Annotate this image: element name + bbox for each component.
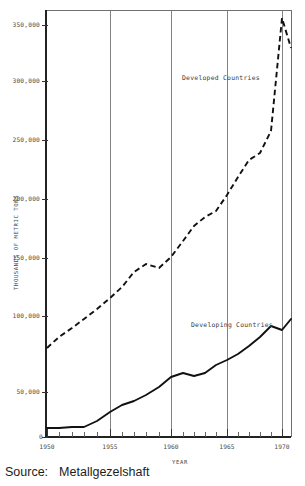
source-caption: Source:Metallgezelshaft xyxy=(5,465,149,479)
ytick-label-50000: 50,000 xyxy=(16,388,40,395)
xtick-label-1965: 1965 xyxy=(219,443,234,450)
series-line-developing xyxy=(47,319,291,428)
xtick-label-1970: 1970 xyxy=(274,443,289,450)
ytick-label-100000: 100,000 xyxy=(13,312,41,319)
x-axis-title: YEAR xyxy=(172,459,188,465)
ytick-label-250000: 250,000 xyxy=(13,136,41,143)
y-axis-title: THOUSANDS OF METRIC TONS xyxy=(13,195,19,290)
x-axis-major-ticks xyxy=(47,429,282,437)
ytick-label-300000: 300,000 xyxy=(13,77,41,84)
xtick-label-1955: 1955 xyxy=(102,443,117,450)
y-axis-ticks xyxy=(42,25,48,437)
x-axis-tick-labels: 1950 1955 1960 1965 1970 xyxy=(39,443,289,450)
source-value: Metallgezelshaft xyxy=(59,465,149,479)
xtick-label-1950: 1950 xyxy=(39,443,54,450)
chart-svg: 350,000 300,000 250,000 200,000 150,000 … xyxy=(0,0,305,486)
x-axis-minor-ticks xyxy=(59,432,271,437)
series-annotation-developing: Developing Countries xyxy=(191,321,273,329)
series-annotation-developed: Developed Countries xyxy=(182,74,260,82)
source-label: Source: xyxy=(5,465,48,479)
ytick-label-0: 0 xyxy=(39,433,43,440)
ytick-label-350000: 350,000 xyxy=(13,21,41,28)
xtick-label-1960: 1960 xyxy=(163,443,178,450)
chart-figure: 350,000 300,000 250,000 200,000 150,000 … xyxy=(0,0,305,486)
series-line-developed xyxy=(47,18,291,348)
